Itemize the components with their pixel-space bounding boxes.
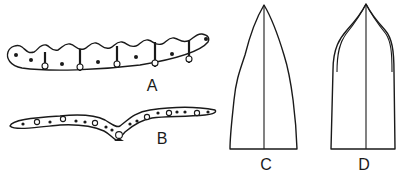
panel-b-node	[144, 114, 149, 119]
panel-b-dot	[48, 120, 51, 123]
panel-b-node	[194, 110, 199, 115]
panel-a-dot	[204, 37, 208, 41]
panel-b-shape	[10, 107, 216, 141]
panel-a-nodes	[14, 37, 208, 71]
panel-a-dot	[60, 62, 64, 66]
panel-b-dot	[128, 122, 131, 125]
panel-c-label: C	[260, 156, 272, 173]
panel-b-dot	[104, 125, 107, 128]
panel-b-dot	[83, 120, 86, 123]
panel-b-dot	[175, 110, 178, 113]
panel-b-dot	[135, 119, 138, 122]
panel-b-node-center	[116, 132, 123, 139]
panel-d-outline	[331, 4, 395, 149]
panel-a-outline	[8, 34, 209, 70]
panel-a-dot	[14, 53, 18, 57]
panel-b-dot	[206, 110, 209, 113]
panel-b-node	[166, 110, 171, 115]
panel-b-node	[34, 119, 39, 124]
panel-d-shape	[331, 4, 395, 149]
panel-a-node	[152, 60, 158, 66]
panel-a-shape	[8, 34, 209, 71]
panel-a-dot	[29, 58, 33, 62]
panel-a-node	[77, 64, 83, 70]
diagram-figure: A B C D	[0, 0, 405, 175]
panel-a-node	[42, 63, 48, 69]
panel-a-label: A	[147, 77, 158, 94]
panel-b-label: B	[157, 130, 168, 147]
panel-b-node	[60, 116, 65, 121]
panel-b-dot	[110, 128, 113, 131]
panel-a-node	[114, 61, 120, 67]
panel-a-node	[186, 56, 192, 62]
panel-a-dot	[134, 55, 138, 59]
panel-d-inner-arch-right	[366, 4, 392, 72]
panel-b-node	[92, 120, 97, 125]
panel-d-label: D	[358, 156, 370, 173]
panel-a-dot	[96, 60, 100, 64]
panel-c-shape	[230, 5, 297, 149]
panel-b-dot	[74, 119, 77, 122]
panel-b-dot	[21, 122, 24, 125]
panel-b-dot	[156, 111, 159, 114]
panel-a-dot	[170, 52, 174, 56]
panel-b-dot	[183, 110, 186, 113]
